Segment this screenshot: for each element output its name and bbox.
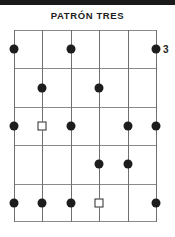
fret-line: [14, 221, 157, 222]
page-title: PATRÓN TRES: [0, 10, 175, 21]
note-marker: [152, 122, 161, 131]
note-marker: [38, 199, 47, 208]
top-border-strip: [0, 0, 175, 5]
note-marker: [124, 160, 133, 169]
note-marker: [67, 122, 76, 131]
fretboard-diagram: [14, 30, 157, 222]
note-marker: [95, 160, 104, 169]
string-line: [99, 30, 100, 222]
root-note-marker: [95, 199, 104, 208]
note-marker: [10, 122, 19, 131]
fret-line: [14, 107, 157, 108]
note-marker: [10, 199, 19, 208]
note-marker: [152, 45, 161, 54]
fret-line: [14, 184, 157, 185]
page-root: PATRÓN TRES 3: [0, 0, 175, 237]
fret-line: [14, 145, 157, 146]
position-label: 3: [163, 44, 169, 55]
note-marker: [38, 84, 47, 93]
note-marker: [67, 45, 76, 54]
fret-line: [14, 30, 157, 31]
note-marker: [10, 45, 19, 54]
note-marker: [95, 84, 104, 93]
note-marker: [124, 122, 133, 131]
note-marker: [152, 199, 161, 208]
root-note-marker: [38, 122, 47, 131]
fret-line: [14, 68, 157, 69]
note-marker: [67, 199, 76, 208]
